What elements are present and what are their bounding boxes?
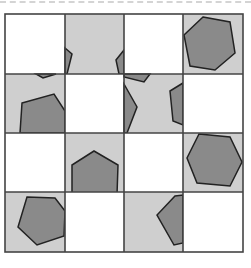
tile-r3c4[interactable] (183, 133, 243, 192)
tile-r2c1[interactable] (5, 74, 65, 133)
tile-r1c1[interactable] (5, 14, 65, 74)
tile-r3c3[interactable] (124, 133, 183, 192)
tile-r3c2[interactable] (65, 133, 124, 195)
tile-r1c4[interactable] (183, 14, 243, 74)
tile-r4c2[interactable] (65, 192, 124, 252)
tile-r4c3[interactable] (124, 192, 183, 252)
tile-r2c4[interactable] (183, 74, 243, 133)
tile-puzzle-grid (0, 0, 251, 268)
tile-r1c2[interactable] (65, 14, 124, 74)
tile-r4c4[interactable] (183, 192, 243, 252)
tile-r1c3[interactable] (124, 14, 183, 74)
tile-r3c1[interactable] (5, 133, 65, 192)
tile-r4c1[interactable] (5, 192, 65, 252)
tile-r2c2[interactable] (65, 74, 124, 133)
tile-r2c3[interactable] (124, 74, 183, 133)
